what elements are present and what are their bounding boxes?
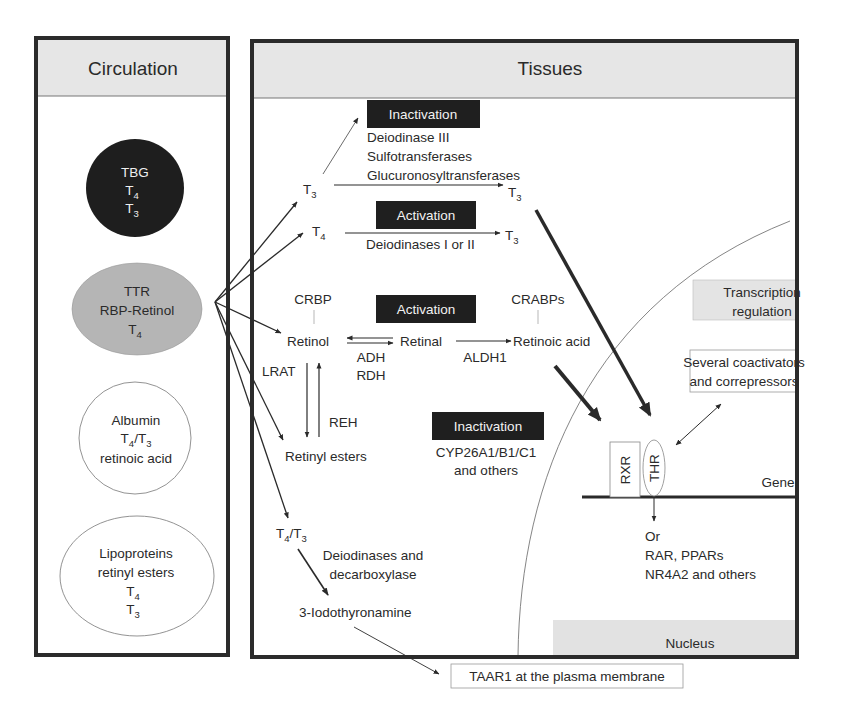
t3-product-inactivated: T3: [508, 185, 522, 203]
ttr-rbp-retinol: RBP-Retinol: [100, 303, 174, 318]
tissues-panel: Tissues: [252, 41, 797, 98]
transcription-label-2: regulation: [732, 304, 791, 319]
gene-label: Gene: [761, 475, 794, 490]
crabps-label: CRABPs: [511, 292, 565, 307]
retinoid-inactivation-label: Inactivation: [454, 419, 522, 434]
transcription-label-1: Transcription: [723, 285, 801, 300]
tissues-border: [252, 41, 797, 657]
ttr-label: TTR: [124, 284, 150, 299]
aldh1-label: ALDH1: [463, 350, 507, 365]
carrier-albumin: Albumin T4/T3 retinoic acid: [79, 382, 191, 494]
rdh-label: RDH: [356, 368, 385, 383]
tissues-title: Tissues: [518, 58, 583, 79]
amine-enzymes-2: decarboxylase: [329, 567, 416, 582]
retinal-label: Retinal: [400, 334, 442, 349]
diagram-canvas: Circulation TBG T4 T3 TTR RBP-Retinol T4…: [0, 0, 860, 722]
crbp-label: CRBP: [294, 292, 332, 307]
carrier-tbg: TBG T4 T3: [86, 139, 184, 237]
retinyl-esters-label: Retinyl esters: [285, 449, 367, 464]
enzyme-deiodinases-i-ii: Deiodinases I or II: [366, 237, 475, 252]
carrier-ttr: TTR RBP-Retinol T4: [72, 263, 202, 355]
thr-label: THR: [647, 454, 662, 482]
coregulators-label-2: and correpressors: [690, 374, 799, 389]
retinol-label: Retinol: [287, 334, 329, 349]
coregulators-label-1: Several coactivators: [683, 355, 805, 370]
coregulator-double-arrow: [676, 404, 721, 445]
retinoic-acid-to-rxr-arrow: [555, 366, 600, 420]
amine-to-taar1-arrow: [354, 627, 439, 674]
nucleus-label: Nucleus: [666, 636, 715, 651]
iodothyronamine-label: 3-Iodothyronamine: [299, 605, 412, 620]
albumin-retinoic-acid: retinoic acid: [100, 451, 172, 466]
t4t3-tissue: T4/T3: [276, 526, 307, 544]
alt-or: Or: [645, 529, 661, 544]
t3-tissue: T3: [303, 182, 317, 200]
alt-rar-ppars: RAR, PPARs: [645, 548, 724, 563]
taar1-label: TAAR1 at the plasma membrane: [469, 669, 665, 684]
reh-label: REH: [329, 415, 358, 430]
enzyme-sulfotransferases: Sulfotransferases: [367, 149, 472, 164]
retinoid-activation-label: Activation: [397, 302, 456, 317]
enzyme-glucuronosyltransferases: Glucuronosyltransferases: [367, 168, 520, 183]
albumin-label: Albumin: [112, 413, 161, 428]
t3-product-activated: T3: [505, 228, 519, 246]
cyp26-label: CYP26A1/B1/C1: [436, 445, 537, 460]
carrier-lipoproteins: Lipoproteins retinyl esters T4 T3: [60, 516, 214, 636]
lipoproteins-label: Lipoproteins: [99, 546, 173, 561]
thyroid-activation-label: Activation: [397, 208, 456, 223]
lipoproteins-retinyl-esters: retinyl esters: [98, 565, 175, 580]
enzyme-deiodinase-iii: Deiodinase III: [367, 130, 450, 145]
arrow-to-retinol: [215, 302, 281, 333]
adh-label: ADH: [357, 350, 386, 365]
circulation-title: Circulation: [88, 58, 178, 79]
tbg-label: TBG: [121, 165, 149, 180]
alt-nr4a2: NR4A2 and others: [645, 567, 756, 582]
cyp26-others-label: and others: [454, 463, 518, 478]
thyroid-inactivation-label: Inactivation: [389, 107, 457, 122]
t4-tissue: T4: [312, 224, 326, 242]
t3-to-inactivation-arrow: [323, 118, 358, 174]
rxr-label: RXR: [618, 456, 633, 485]
t3-to-thr-arrow: [536, 210, 650, 415]
lrat-label: LRAT: [262, 364, 296, 379]
retinoic-acid-label: Retinoic acid: [513, 334, 590, 349]
amine-enzymes-1: Deiodinases and: [323, 548, 424, 563]
